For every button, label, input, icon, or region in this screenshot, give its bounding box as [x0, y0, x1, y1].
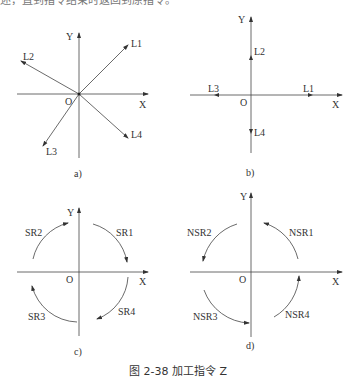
figure-caption: 图 2-38 加工指令 Z	[0, 362, 356, 378]
nsr3-label: NSR3	[193, 311, 217, 322]
sr1-label: SR1	[116, 227, 133, 238]
x-axis-label: X	[139, 276, 147, 287]
panel-d: Y X O NSR1 NSR2 NSR3 NSR4 d)	[187, 191, 342, 352]
sr2-label: SR2	[25, 227, 42, 238]
x-axis-label: X	[332, 99, 340, 110]
l1-label: L1	[131, 38, 142, 49]
origin-label: O	[240, 97, 247, 108]
panel-d-label: d)	[246, 340, 254, 352]
panel-b-label: b)	[246, 167, 254, 179]
sr3-label: SR3	[28, 311, 45, 322]
l3-label: L3	[208, 83, 219, 94]
panel-b: Y X O L1 L2 L3 L4 b)	[190, 14, 342, 179]
x-axis-label: X	[332, 276, 340, 287]
nsr4-label: NSR4	[285, 309, 309, 320]
y-axis-label: Y	[240, 191, 247, 202]
nsr2-label: NSR2	[187, 227, 211, 238]
l4-arrow	[249, 129, 253, 134]
l2-arrow	[249, 55, 253, 60]
l4-label: L4	[131, 129, 142, 140]
origin-label: O	[65, 96, 72, 107]
y-axis-label: Y	[67, 207, 74, 218]
l2-label: L2	[254, 46, 265, 57]
panel-c: Y X O SR1 SR2 SR3 SR4 c)	[17, 207, 148, 358]
nsr1-label: NSR1	[289, 227, 313, 238]
line-l1	[79, 45, 128, 94]
panel-a-label: a)	[74, 168, 82, 180]
l2-label: L2	[23, 51, 34, 62]
line-l3	[43, 94, 79, 146]
panel-c-label: c)	[74, 346, 82, 358]
y-axis-label: Y	[66, 31, 73, 42]
l3-label: L3	[46, 146, 57, 157]
origin-label: O	[239, 274, 246, 285]
figure-canvas: Y X O L1 L2 L3 L4 a) Y X O L1 L2 L3 L4 b…	[0, 0, 356, 383]
y-axis-label: Y	[238, 14, 245, 25]
sr4-label: SR4	[118, 306, 135, 317]
origin-label: O	[66, 274, 73, 285]
line-l4	[79, 94, 128, 138]
l4-label: L4	[254, 127, 265, 138]
origin-dot	[78, 93, 81, 96]
panel-a: Y X O L1 L2 L3 L4 a)	[17, 31, 148, 180]
x-axis-label: X	[139, 99, 147, 110]
line-l2	[21, 61, 79, 94]
l1-label: L1	[303, 83, 314, 94]
